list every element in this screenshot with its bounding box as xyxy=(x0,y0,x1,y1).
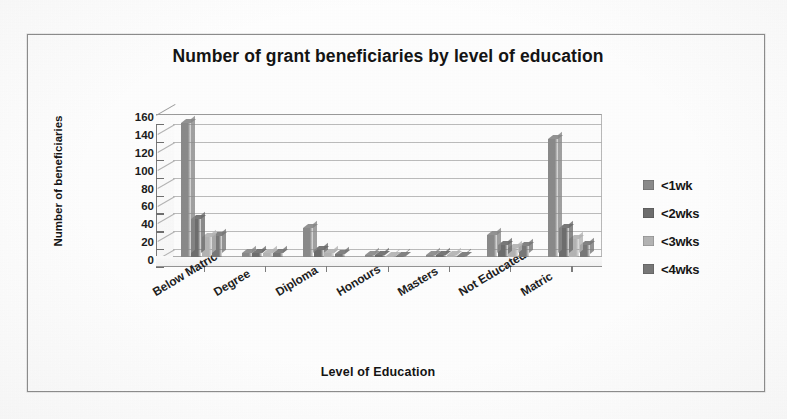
bar-face xyxy=(181,123,191,257)
bar-group xyxy=(548,114,590,257)
y-axis-tick-mark xyxy=(156,160,164,161)
chart-title: Number of grant beneficiaries by level o… xyxy=(118,45,658,68)
bar-side-face xyxy=(313,220,317,253)
y-axis-tick-mark xyxy=(156,267,164,268)
x-axis-title: Level of Education xyxy=(188,365,568,379)
bar-face xyxy=(365,255,375,257)
bar-group xyxy=(426,114,468,257)
x-axis-category-label: Diploma xyxy=(273,263,320,299)
bar[interactable] xyxy=(365,255,375,257)
y-axis-tick-mark xyxy=(156,142,164,143)
y-axis-tick-mark xyxy=(156,213,164,214)
legend-swatch-icon xyxy=(643,208,654,218)
bar-face xyxy=(426,255,436,257)
bar[interactable] xyxy=(487,235,497,257)
bar[interactable] xyxy=(386,256,396,257)
bar-group xyxy=(181,114,223,257)
bar-side-face xyxy=(212,230,216,253)
bar[interactable] xyxy=(447,255,457,257)
legend-item[interactable]: <2wks xyxy=(643,199,763,227)
x-axis-category-label: Honours xyxy=(334,262,383,299)
bar-face xyxy=(242,253,252,257)
x-axis-tick-mark xyxy=(388,266,389,272)
y-axis-tick-label: 0 xyxy=(148,255,154,265)
bar[interactable] xyxy=(396,256,406,257)
bar-face xyxy=(447,255,457,257)
bar-face xyxy=(273,253,283,257)
y-axis-tick-label: 40 xyxy=(141,219,154,229)
plot-floor xyxy=(156,256,602,267)
x-axis-category-label: Masters xyxy=(395,264,441,299)
bar-side-face xyxy=(579,232,583,253)
bar-group xyxy=(487,114,529,257)
y-axis-tick-label: 140 xyxy=(135,130,154,140)
y-axis-tick-mark xyxy=(156,231,164,232)
bar-side-face xyxy=(569,220,573,253)
bar[interactable] xyxy=(436,255,446,257)
bar[interactable] xyxy=(303,228,313,257)
plot-side-wall xyxy=(156,114,174,267)
y-axis-tick-label: 60 xyxy=(141,201,154,211)
legend-label: <1wk xyxy=(661,178,692,193)
y-axis-tick-mark xyxy=(156,178,164,179)
bar-group xyxy=(242,114,284,257)
y-axis-tick-mark xyxy=(156,249,164,250)
bars-layer xyxy=(173,114,602,257)
bar-side-face xyxy=(222,228,226,253)
bar-face xyxy=(252,253,262,257)
legend-item[interactable]: <3wks xyxy=(643,227,763,255)
x-axis-category-labels: Below MatricDegreeDiplomaHonoursMastersN… xyxy=(148,273,618,348)
x-axis-tick-mark xyxy=(326,266,327,272)
legend-label: <2wks xyxy=(661,206,699,221)
y-axis-title: Number of beneficiaries xyxy=(52,91,64,271)
legend-item[interactable]: <1wk xyxy=(643,171,763,199)
plot-area xyxy=(156,114,602,267)
y-axis-tick-label: 120 xyxy=(135,148,154,158)
y-axis-tick-label: 20 xyxy=(141,237,154,247)
bar-face xyxy=(487,235,497,257)
bar-face xyxy=(263,253,273,257)
bar-group xyxy=(303,114,345,257)
bar[interactable] xyxy=(242,253,252,257)
legend-label: <4wks xyxy=(661,262,699,277)
bar[interactable] xyxy=(335,254,345,257)
bar[interactable] xyxy=(426,255,436,257)
bar-face xyxy=(303,228,313,257)
bar-side-face xyxy=(191,116,195,253)
bar-side-face xyxy=(201,212,205,253)
y-axis-tick-label: 100 xyxy=(135,166,154,176)
bar[interactable] xyxy=(263,253,273,257)
y-axis-tick-labels: 160140120100806040200 xyxy=(118,115,154,261)
bar[interactable] xyxy=(273,253,283,257)
bar-face xyxy=(324,253,334,257)
bar[interactable] xyxy=(548,139,558,257)
x-axis-category-label: Matric xyxy=(518,269,555,299)
bar[interactable] xyxy=(375,255,385,257)
y-axis-tick-label: 80 xyxy=(141,184,154,194)
bar[interactable] xyxy=(457,256,467,257)
chart-legend: <1wk<2wks<3wks<4wks xyxy=(643,171,763,283)
bar-face xyxy=(375,255,385,257)
legend-swatch-icon xyxy=(643,180,654,190)
bar-face xyxy=(335,254,345,257)
legend-swatch-icon xyxy=(643,236,654,246)
bar-side-face xyxy=(590,237,594,253)
y-axis-tick-label: 160 xyxy=(135,112,154,122)
legend-label: <3wks xyxy=(661,234,699,249)
bar[interactable] xyxy=(181,123,191,257)
bar-side-face xyxy=(508,237,512,253)
y-axis-tick-mark xyxy=(156,196,164,197)
bar-face xyxy=(548,139,558,257)
bar-face xyxy=(436,255,446,257)
bar[interactable] xyxy=(324,253,334,257)
chart-frame: Number of grant beneficiaries by level o… xyxy=(27,34,765,392)
x-axis-tick-mark xyxy=(265,266,266,272)
x-axis-category-label: Degree xyxy=(211,266,253,299)
y-axis-tick-mark xyxy=(156,124,164,125)
bar[interactable] xyxy=(252,253,262,257)
legend-swatch-icon xyxy=(643,264,654,274)
legend-item[interactable]: <4wks xyxy=(643,255,763,283)
bar-side-face xyxy=(497,228,501,253)
bar-side-face xyxy=(529,239,533,253)
bar-side-face xyxy=(558,132,562,253)
